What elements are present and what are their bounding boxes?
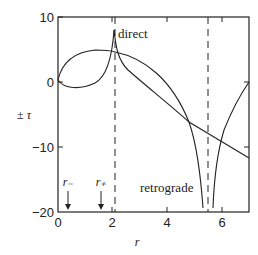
y-tick-label: −20 [32,205,54,220]
x-tick-label: 2 [108,215,115,230]
annotation-direct: direct [118,26,148,41]
x-tick-label: 6 [218,215,225,230]
annotation-retrograde: retrograde [140,180,194,195]
chart: 10 0 −10 −20 0 2 4 6 r ± τ direct retrog… [0,0,258,255]
x-axis-label: r [135,235,140,249]
arrowhead-icon [98,204,104,210]
y-tick-label: −10 [32,140,54,155]
x-tick-label: 0 [54,215,61,230]
y-tick-label: 0 [47,75,54,90]
annotation-r-plus: r₊ [96,175,108,189]
y-tick-label: 10 [40,10,54,25]
x-tick-label: 4 [163,215,170,230]
annotation-r-minus: r₋ [63,175,75,189]
y-axis-label: ± τ [17,108,32,122]
arrowhead-icon [65,204,71,210]
